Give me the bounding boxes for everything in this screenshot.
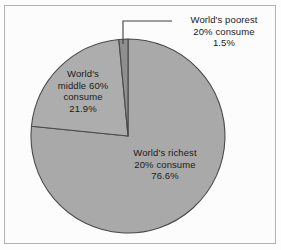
pie-label-world-middle-line3: consume — [41, 91, 125, 103]
pie-label-world-richest-line2: 20% consume — [113, 159, 217, 171]
pie-chart-figure: World's poorest 20% consume 1.5% World's… — [0, 0, 281, 250]
pie-label-world-poorest-line1: World's poorest — [172, 14, 276, 26]
pie-label-world-middle-line4: 21.9% — [41, 103, 125, 115]
pie-label-world-richest-line3: 76.6% — [113, 170, 217, 182]
pie-label-world-richest: World's richest 20% consume 76.6% — [113, 147, 217, 182]
pie-label-world-poorest-line3: 1.5% — [172, 37, 276, 49]
pie-label-world-richest-line1: World's richest — [113, 147, 217, 159]
pie-label-world-middle-line2: middle 60% — [41, 80, 125, 92]
pie-label-world-middle: World's middle 60% consume 21.9% — [41, 68, 125, 114]
pie-label-world-middle-line1: World's — [41, 68, 125, 80]
pie-label-world-poorest: World's poorest 20% consume 1.5% — [172, 14, 276, 49]
pie-label-world-poorest-line2: 20% consume — [172, 26, 276, 38]
